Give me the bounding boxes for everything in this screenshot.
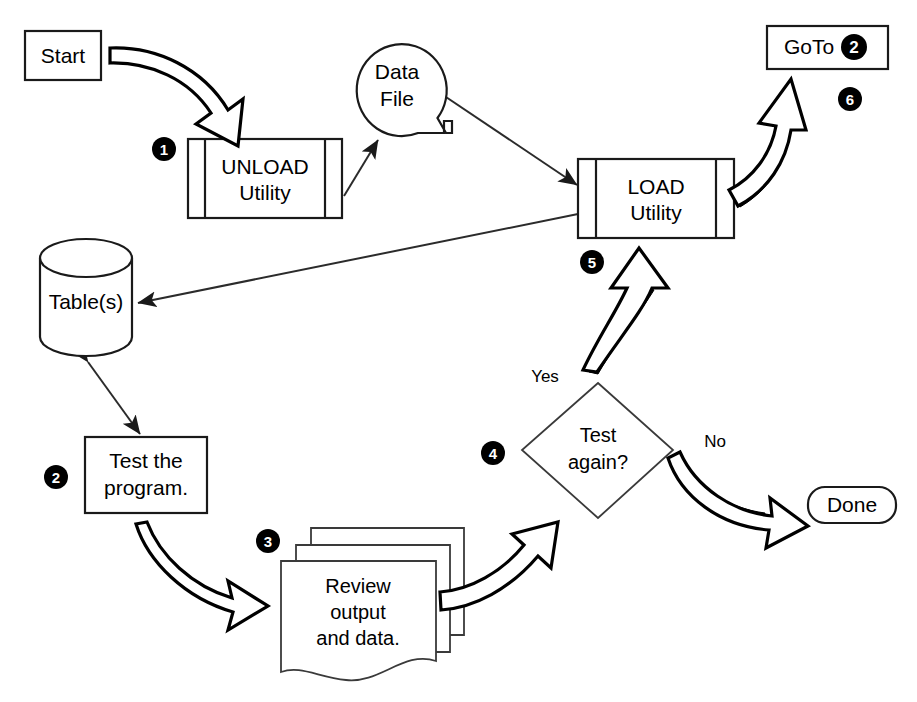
node-start-label: Start [41, 44, 86, 67]
node-data-file-label-line1: Data [375, 60, 420, 83]
flowchart-canvas: Start UNLOAD Utility Data File LOAD Util… [0, 0, 917, 702]
node-test-program-label-line1: Test the [109, 449, 183, 472]
node-data-file[interactable]: Data File [357, 44, 452, 136]
node-test-program[interactable]: Test the program. [85, 437, 207, 513]
goto-badge-number: 2 [849, 38, 858, 57]
node-data-file-label-line2: File [380, 87, 414, 110]
step-marker-1-number: 1 [160, 141, 168, 158]
node-load-label-line1: LOAD [627, 175, 684, 198]
step-marker-6: 6 [838, 87, 862, 111]
node-unload-utility[interactable]: UNLOAD Utility [188, 139, 342, 218]
edge-label-no-text: No [704, 432, 726, 451]
step-marker-3-number: 3 [264, 533, 272, 550]
node-review-label-line2: output [330, 601, 386, 623]
node-done-label: Done [827, 493, 877, 516]
block-arrow-no-to-done [668, 452, 808, 548]
block-arrow-start-to-unload [110, 48, 243, 146]
flowchart-svg: Start UNLOAD Utility Data File LOAD Util… [0, 0, 917, 702]
node-unload-label-line2: Utility [239, 181, 291, 204]
step-marker-3: 3 [256, 529, 280, 553]
node-test-again-label-line1: Test [580, 424, 617, 446]
connector-datafile-to-load [440, 93, 577, 185]
node-test-program-label-line2: program. [104, 476, 188, 499]
step-marker-2-number: 2 [52, 469, 60, 486]
node-review-label-line1: Review [325, 575, 391, 597]
edge-label-yes: Yes [531, 367, 559, 386]
node-load-label-line2: Utility [630, 201, 682, 224]
node-review-output[interactable]: Review output and data. [281, 528, 464, 680]
connector-load-to-tables [138, 214, 578, 303]
step-marker-4: 4 [481, 441, 505, 465]
edge-label-yes-text: Yes [531, 367, 559, 386]
node-load-utility[interactable]: LOAD Utility [578, 159, 734, 238]
step-marker-6-number: 6 [846, 91, 854, 108]
node-test-again-label-line2: again? [568, 451, 628, 473]
block-arrow-load-to-goto [729, 79, 806, 207]
node-done[interactable]: Done [808, 487, 896, 523]
node-goto[interactable]: GoTo 2 [767, 26, 888, 69]
step-marker-2: 2 [44, 465, 68, 489]
step-marker-5-number: 5 [588, 254, 596, 271]
edge-label-no: No [704, 432, 726, 451]
node-tables-label: Table(s) [49, 290, 124, 313]
step-marker-4-number: 4 [489, 445, 498, 462]
step-marker-5: 5 [580, 250, 604, 274]
node-goto-label: GoTo [784, 35, 834, 58]
block-arrow-testprogram-to-review [136, 522, 268, 630]
node-test-again[interactable]: Test again? [522, 383, 673, 518]
step-marker-1: 1 [152, 137, 176, 161]
node-unload-label-line1: UNLOAD [221, 155, 309, 178]
connector-tables-to-testprogram [88, 362, 140, 434]
connector-unload-to-datafile [344, 140, 378, 196]
node-start[interactable]: Start [25, 31, 101, 80]
node-tables[interactable]: Table(s) [40, 239, 132, 356]
node-review-label-line3: and data. [316, 627, 399, 649]
